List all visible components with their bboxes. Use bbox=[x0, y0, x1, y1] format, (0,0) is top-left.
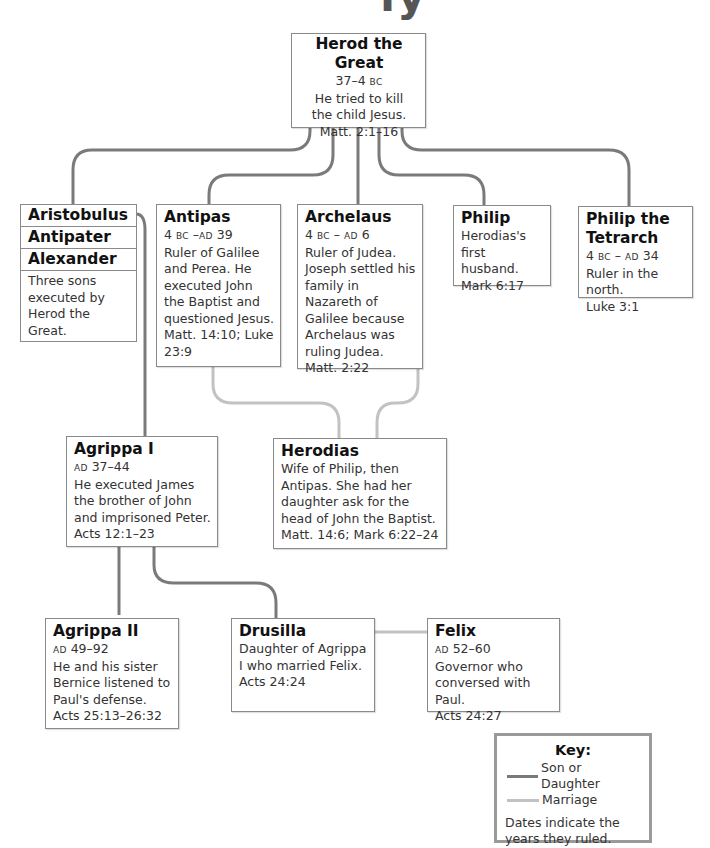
scripture-reference: Acts 12:1–23 bbox=[74, 526, 211, 543]
scripture-reference: Mark 6:17 bbox=[461, 278, 544, 295]
person-felix[interactable]: Felix AD 52–60 Governor who conversed wi… bbox=[427, 618, 560, 712]
person-antipas[interactable]: Antipas 4 BC –AD 39 Ruler of Galilee and… bbox=[156, 204, 281, 367]
person-dates: AD 52–60 bbox=[435, 641, 553, 659]
line-aristobulus-to-agrippa-i bbox=[136, 214, 145, 436]
person-name: Felix bbox=[435, 622, 553, 641]
person-name-aristobulus: Aristobulus bbox=[20, 204, 137, 226]
person-name: Antipas bbox=[164, 208, 274, 227]
person-herodias[interactable]: Herodias Wife of Philip, then Antipas. S… bbox=[273, 438, 447, 549]
person-herod-the-great[interactable]: Herod the Great 37–4 BC He tried to kill… bbox=[291, 33, 426, 128]
person-name: Agrippa II bbox=[53, 622, 172, 641]
line-antipas-herodias-marriage bbox=[213, 366, 339, 439]
legend-item-marriage: Marriage bbox=[505, 792, 641, 808]
line-agrippa-i-to-drusilla bbox=[154, 546, 276, 618]
person-dates: 4 BC – AD 34 bbox=[586, 248, 686, 266]
person-name: Philip bbox=[461, 209, 544, 228]
scripture-reference: Luke 3:1 bbox=[586, 299, 686, 316]
person-three-sons[interactable]: Aristobulus Antipater Alexander Three so… bbox=[20, 204, 137, 342]
person-description: He tried to kill the child Jesus. bbox=[299, 91, 419, 124]
person-name: Agrippa I bbox=[74, 440, 211, 459]
person-dates: 37–4 BC bbox=[299, 73, 419, 91]
person-description: Herodias's first husband. bbox=[461, 228, 544, 278]
person-description: Wife of Philip, then Antipas. She had he… bbox=[281, 461, 440, 527]
person-dates: 4 BC – AD 6 bbox=[305, 227, 416, 245]
scripture-reference: Acts 24:24 bbox=[239, 674, 368, 691]
legend-label: Marriage bbox=[542, 792, 597, 808]
person-description: Ruler of Galilee and Perea. He executed … bbox=[164, 245, 274, 328]
person-description: Governor who conversed with Paul. bbox=[435, 659, 553, 709]
legend-item-son-or-daughter: Son or Daughter bbox=[505, 760, 641, 792]
person-name: Archelaus bbox=[305, 208, 416, 227]
line-herod-to-aristobulus bbox=[73, 127, 310, 204]
person-dates: 4 BC –AD 39 bbox=[164, 227, 274, 245]
marriage-line-swatch bbox=[507, 799, 539, 802]
line-herod-to-philip-tetrarch bbox=[402, 127, 629, 206]
person-agrippa-ii[interactable]: Agrippa II AD 49–92 He and his sister Be… bbox=[45, 618, 179, 729]
person-archelaus[interactable]: Archelaus 4 BC – AD 6 Ruler of Judea. Jo… bbox=[297, 204, 423, 369]
person-drusilla[interactable]: Drusilla Daughter of Agrippa I who marri… bbox=[231, 618, 375, 712]
person-name-antipater: Antipater bbox=[20, 226, 137, 248]
person-philip-the-tetrarch[interactable]: Philip the Tetrarch 4 BC – AD 34 Ruler i… bbox=[578, 206, 693, 298]
person-name: Herodias bbox=[281, 442, 440, 461]
person-philip[interactable]: Philip Herodias's first husband. Mark 6:… bbox=[453, 205, 551, 286]
person-name-alexander: Alexander bbox=[20, 248, 137, 270]
legend-note: Dates indicate the years they ruled. bbox=[505, 815, 641, 847]
legend-key: Key: Son or Daughter Marriage Dates indi… bbox=[494, 733, 652, 843]
person-description: He executed James the brother of John an… bbox=[74, 477, 211, 527]
person-description: He and his sister Bernice listened to Pa… bbox=[53, 659, 172, 709]
person-name: Herod the Great bbox=[299, 35, 419, 73]
scripture-reference: Matt. 14:10; Luke 23:9 bbox=[164, 327, 274, 360]
person-description: Ruler in the north. bbox=[586, 266, 686, 299]
person-dates: AD 49–92 bbox=[53, 641, 172, 659]
son-or-daughter-line-swatch bbox=[507, 775, 538, 778]
scripture-reference: Acts 24:27 bbox=[435, 708, 553, 725]
scripture-reference: Acts 25:13–26:32 bbox=[53, 708, 172, 725]
person-name: Philip the Tetrarch bbox=[586, 210, 686, 248]
scripture-reference: Matt. 2:1–16 bbox=[299, 124, 419, 141]
person-agrippa-i[interactable]: Agrippa I AD 37–44 He executed James the… bbox=[66, 436, 218, 547]
legend-label: Son or Daughter bbox=[541, 760, 641, 792]
scripture-reference: Matt. 14:6; Mark 6:22–24 bbox=[281, 527, 440, 544]
person-dates: AD 37–44 bbox=[74, 459, 211, 477]
person-description: Daughter of Agrippa I who married Felix. bbox=[239, 641, 368, 674]
scripture-reference: Matt. 2:22 bbox=[305, 360, 416, 377]
person-description: Ruler of Judea. Joseph settled his famil… bbox=[305, 245, 416, 361]
legend-title: Key: bbox=[505, 742, 641, 758]
person-name: Drusilla bbox=[239, 622, 368, 641]
person-description: Three sons executed by Herod the Great. bbox=[20, 270, 137, 342]
